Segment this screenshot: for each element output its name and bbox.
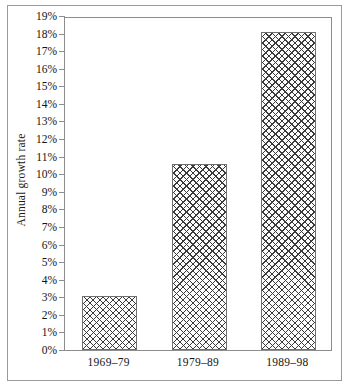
y-axis-tick-label: 6% bbox=[42, 239, 57, 251]
x-axis-label-1: 1969–79 bbox=[87, 356, 129, 368]
y-axis-tick-label: 0% bbox=[42, 344, 57, 356]
y-axis-tick-mark bbox=[59, 209, 65, 210]
y-axis-tick-label: 12% bbox=[36, 133, 57, 145]
y-axis-tick-mark bbox=[59, 350, 65, 351]
y-axis-tick-mark bbox=[59, 34, 65, 35]
y-axis-tick-mark bbox=[59, 297, 65, 298]
y-axis-tick-label: 17% bbox=[36, 45, 57, 57]
chart-figure: Annual growth rate 0%1%2%3%4%5%6%7%8%9%1… bbox=[0, 0, 349, 388]
y-axis-tick-mark bbox=[59, 157, 65, 158]
y-axis-tick-mark bbox=[59, 121, 65, 122]
x-axis-label-3: 1989–98 bbox=[266, 356, 308, 368]
y-axis-tick-mark bbox=[59, 227, 65, 228]
y-axis-tick-mark bbox=[59, 86, 65, 87]
y-axis-tick-label: 8% bbox=[42, 203, 57, 215]
y-axis-tick-label: 9% bbox=[42, 186, 57, 198]
y-axis-tick-label: 5% bbox=[42, 256, 57, 268]
y-axis-tick-mark bbox=[59, 280, 65, 281]
y-axis-tick-label: 3% bbox=[42, 291, 57, 303]
y-axis-tick-mark bbox=[59, 139, 65, 140]
y-axis-tick-label: 11% bbox=[36, 151, 57, 163]
y-axis-tick-label: 14% bbox=[36, 98, 57, 110]
y-axis-title-text: Annual growth rate bbox=[15, 133, 27, 226]
y-axis-tick-label: 1% bbox=[42, 326, 57, 338]
y-axis-tick-mark bbox=[59, 245, 65, 246]
y-axis-tick-label: 10% bbox=[36, 168, 57, 180]
y-axis-tick-mark bbox=[59, 51, 65, 52]
y-axis-tick-mark bbox=[59, 315, 65, 316]
y-axis-tick-mark bbox=[59, 192, 65, 193]
plot-frame: 0%1%2%3%4%5%6%7%8%9%10%11%12%13%14%15%16… bbox=[64, 17, 332, 351]
y-axis-title: Annual growth rate bbox=[10, 0, 32, 360]
y-axis-tick-mark bbox=[59, 69, 65, 70]
y-axis-tick-label: 7% bbox=[42, 221, 57, 233]
y-axis-tick-label: 18% bbox=[36, 28, 57, 40]
y-axis-tick-label: 2% bbox=[42, 309, 57, 321]
bar-2 bbox=[172, 164, 227, 350]
y-axis-tick-mark bbox=[59, 16, 65, 17]
y-axis-tick-label: 4% bbox=[42, 274, 57, 286]
y-axis-tick-label: 16% bbox=[36, 63, 57, 75]
y-axis-tick-mark bbox=[59, 104, 65, 105]
y-axis-tick-mark bbox=[59, 174, 65, 175]
y-axis-tick-label: 15% bbox=[36, 80, 57, 92]
y-axis-tick-label: 19% bbox=[36, 10, 57, 22]
plot-area: 0%1%2%3%4%5%6%7%8%9%10%11%12%13%14%15%16… bbox=[65, 18, 331, 350]
x-axis-label-2: 1979–89 bbox=[177, 356, 219, 368]
bar-1 bbox=[82, 296, 137, 350]
y-axis-tick-mark bbox=[59, 332, 65, 333]
y-axis-tick-label: 13% bbox=[36, 115, 57, 127]
y-axis-tick-mark bbox=[59, 262, 65, 263]
bar-3 bbox=[261, 32, 316, 350]
